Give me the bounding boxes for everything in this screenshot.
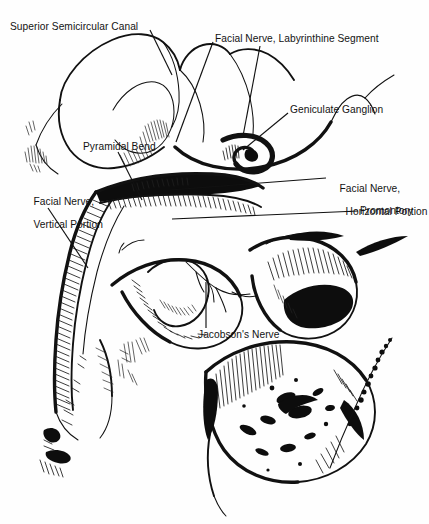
- shading-niche-inner: [160, 300, 196, 315]
- bone-speckles: [238, 378, 335, 472]
- label-facial-nerve-vertical-portion: Facial Nerve, Vertical Portion: [22, 185, 103, 242]
- geniculate-ganglion-group: [223, 135, 272, 171]
- leader-superior-semicircular-canal: [150, 30, 172, 75]
- facial-nerve-horizontal-group: [96, 174, 263, 215]
- jacobsons-nerve-group: [186, 262, 256, 312]
- label-facial-nerve-vertical-line2: Vertical Portion: [34, 219, 103, 230]
- label-facial-nerve-horizontal-portion: Facial Nerve, Horizontal Portion: [328, 172, 427, 229]
- leader-facial-nerve-labyrinthine: [176, 42, 213, 142]
- label-superior-semicircular-canal: Superior Semicircular Canal: [10, 21, 138, 33]
- labyrinthine-segment-group: [175, 75, 394, 169]
- anatomical-figure: Superior Semicircular Canal Facial Nerve…: [0, 0, 429, 524]
- shading-mastoid-tip: [96, 338, 149, 392]
- promontory-group: [250, 232, 408, 339]
- label-promontory: Promontory: [360, 205, 413, 217]
- mastoid-tip-group: [96, 338, 149, 438]
- label-facial-nerve-vertical-line1: Facial Nerve,: [34, 196, 95, 207]
- label-facial-nerve-labyrinthine-segment: Facial Nerve, Labyrinthine Segment: [215, 33, 379, 45]
- shading-center-wisps: [118, 342, 135, 378]
- label-geniculate-ganglion: Geniculate Ganglion: [290, 104, 383, 116]
- label-pyramidal-bend: Pyramidal Bend: [83, 141, 156, 153]
- temporal-bone-lower-group: [203, 338, 392, 516]
- leader-facial-nerve-labyrinthine-2: [243, 46, 260, 136]
- anatomy-drawing: [0, 0, 429, 524]
- label-jacobsons-nerve: Jacobson's Nerve: [198, 329, 279, 341]
- shading-bone-left: [212, 345, 283, 410]
- label-facial-nerve-horizontal-line1: Facial Nerve,: [340, 183, 401, 194]
